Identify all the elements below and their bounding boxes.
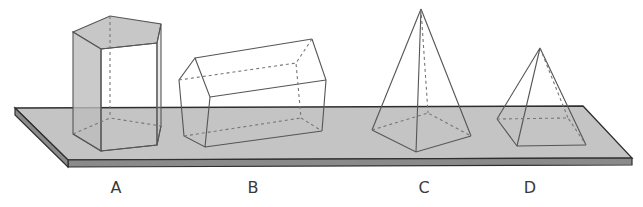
label-c: C <box>414 178 434 197</box>
solids-diagram <box>0 0 643 207</box>
label-d: D <box>520 178 540 197</box>
label-a: A <box>106 178 126 197</box>
shape-a-pentagonal-prism <box>73 16 161 151</box>
label-b: B <box>243 178 263 197</box>
